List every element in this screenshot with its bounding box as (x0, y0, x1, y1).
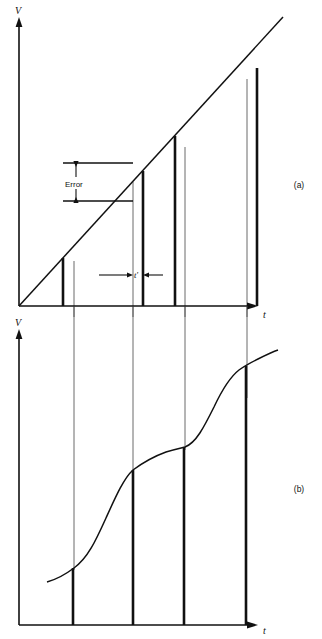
analog-signal-curve (47, 350, 278, 582)
x-axis-label-b: t (263, 625, 266, 636)
error-arrow-down-icon (73, 197, 78, 203)
error-annotation: Error (62, 161, 133, 203)
y-axis-arrow-icon-a (16, 17, 23, 27)
panel-b-axes: V t (15, 317, 266, 636)
error-arrow-up-icon (73, 161, 78, 167)
error-label: Error (65, 180, 83, 189)
interval-arrow-right-icon (127, 273, 133, 278)
panel-a-axes: V t (15, 5, 266, 320)
sample-interval-annotation: t' (99, 270, 163, 280)
y-axis-arrow-icon-b (16, 329, 23, 339)
y-axis-label-b: V (15, 317, 23, 328)
panel-b: V t (b) (15, 306, 304, 636)
panel-b-sample-bars (73, 366, 246, 625)
panel-label-a: (a) (294, 180, 305, 190)
y-axis-label-a: V (15, 5, 23, 16)
ramp-signal-line (19, 17, 283, 306)
panel-a-guide-lines (74, 79, 247, 317)
x-axis-label-a: t (263, 309, 266, 320)
panel-label-b: (b) (294, 484, 305, 494)
sample-interval-label: t' (134, 270, 138, 280)
panel-a: Error t' V t (a) (15, 5, 304, 320)
x-axis-arrow-icon-b (247, 621, 258, 628)
figure-sampling-diagram: Error t' V t (a) (0, 0, 322, 639)
